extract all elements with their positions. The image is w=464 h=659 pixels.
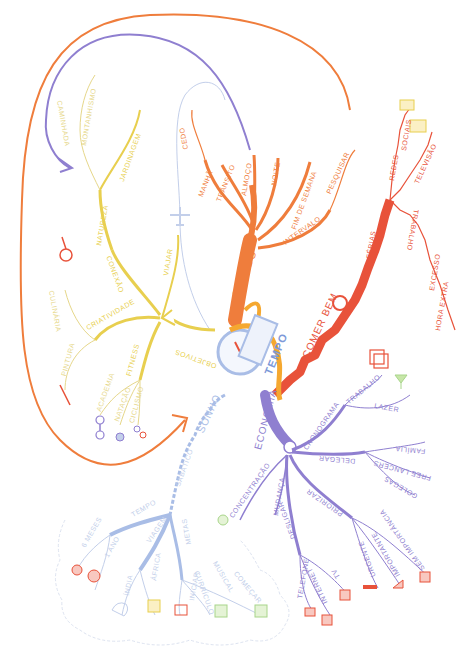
dumbbell-icon	[96, 416, 104, 439]
branch-almoco	[254, 155, 255, 215]
orange-loop-arrowhead	[172, 415, 187, 432]
tv-icon-2	[410, 120, 426, 132]
branch-trabalho-red	[390, 200, 455, 330]
branch-iniciar	[179, 580, 182, 615]
lightblue-loop-connector	[177, 82, 225, 330]
music-icon	[255, 605, 267, 617]
bicycle-icon	[134, 426, 146, 438]
branch-1-ano	[95, 535, 110, 590]
calendar-icon-1-ano	[88, 570, 100, 582]
notebook-icon	[215, 605, 227, 617]
branch-priorizar	[290, 455, 352, 518]
cocktail-icon	[395, 375, 407, 389]
sonho-cloud-trunk	[170, 395, 225, 515]
swimmer-icon	[116, 433, 124, 441]
branch-fitness	[140, 322, 160, 380]
branch-cedo	[192, 110, 205, 160]
internet-icon	[322, 615, 332, 625]
tv-icon	[400, 100, 414, 110]
box-icon-sem-importancia	[420, 572, 430, 582]
branch-metas	[170, 515, 182, 580]
focus-icon	[218, 515, 228, 525]
mindmap-canvas	[0, 0, 464, 659]
calendar-icon-6-meses	[72, 565, 82, 575]
giraffe-icon	[148, 600, 160, 612]
tv-icon-economia	[340, 590, 350, 600]
orange-loop-connector	[21, 14, 350, 464]
branch-delegar	[292, 452, 365, 454]
alert-icon-urgente	[363, 585, 377, 589]
branch-culinaria	[65, 290, 95, 340]
laptop-icon	[370, 350, 388, 368]
airplane-icon	[170, 207, 190, 225]
phone-icon	[305, 608, 315, 616]
purple-loop-connector	[46, 35, 250, 168]
computer-icon	[175, 605, 187, 615]
elephant-icon	[112, 603, 128, 616]
branch-viajar	[162, 235, 178, 318]
frying-pan-icon	[60, 237, 72, 261]
